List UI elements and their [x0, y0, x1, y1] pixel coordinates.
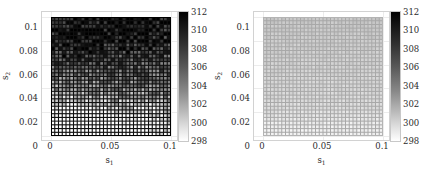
- colorbar-tick-label: 298: [403, 137, 419, 146]
- y-tick-label: 0.06: [231, 70, 250, 79]
- y-tick-label: 0.1: [24, 23, 38, 32]
- x-tick-label: 0.1: [163, 142, 177, 151]
- x-axis-label-left: s1: [41, 156, 178, 166]
- x-tick-label: 0.1: [375, 142, 389, 151]
- x-tick-label: 0.05: [101, 142, 120, 151]
- colorbar-tick-label: 312: [403, 8, 419, 17]
- colorbar-tick-label: 302: [191, 100, 207, 109]
- panel-right: 0.1 0.08 0.06 0.04 0.02 0 0 0.05 0.1 s1 …: [212, 0, 424, 178]
- colorbar-tick-label: 308: [191, 45, 207, 54]
- x-axis-label-right: s1: [253, 156, 390, 166]
- colorbar-tick-label: 310: [403, 26, 419, 35]
- axes-left: [41, 11, 178, 141]
- y-axis-label-text: s: [0, 76, 10, 80]
- colorbar-tick-label: 302: [403, 100, 419, 109]
- x-tick-label: 0: [259, 142, 264, 151]
- x-tick-label: 0.05: [313, 142, 332, 151]
- colorbar-tick-label: 304: [403, 81, 419, 90]
- y-axis-label-subscript: 2: [4, 72, 11, 76]
- x-axis-label-subscript: 1: [322, 159, 326, 166]
- colorbar-tick-label: 300: [403, 118, 419, 127]
- colorbar-tick-label: 310: [191, 26, 207, 35]
- y-axis-label-subscript: 2: [216, 72, 223, 76]
- y-tick-label: 0.04: [231, 94, 250, 103]
- mesh-canvas-right: [263, 17, 383, 136]
- x-tick-labels-left: 0 0.05 0.1: [41, 142, 178, 156]
- y-tick-label: 0.08: [231, 47, 250, 56]
- y-tick-label: 0.04: [19, 94, 38, 103]
- axes-right: [253, 11, 390, 141]
- panel-left: 0.1 0.08 0.06 0.04 0.02 0 0 0.05 0.1 s1 …: [0, 0, 212, 178]
- colorbar-tick-label: 306: [191, 63, 207, 72]
- colorbar-tick-label: 298: [191, 137, 207, 146]
- y-tick-label: 0: [33, 142, 38, 151]
- y-tick-label: 0.06: [19, 70, 38, 79]
- y-axis-label-right: s2: [213, 72, 223, 80]
- colorbar-tick-labels-right: 312 310 308 306 304 302 300 298: [403, 11, 424, 142]
- x-tick-labels-right: 0 0.05 0.1: [253, 142, 390, 156]
- y-axis-label-text: s: [212, 76, 222, 80]
- y-axis-label-left: s2: [1, 72, 11, 80]
- y-tick-label: 0.02: [231, 118, 250, 127]
- colorbar-tick-label: 306: [403, 63, 419, 72]
- y-tick-label: 0.08: [19, 47, 38, 56]
- colorbar-tick-label: 304: [191, 81, 207, 90]
- colorbar-tick-label: 308: [403, 45, 419, 54]
- colorbar-right: [390, 11, 401, 142]
- colorbar-tick-labels-left: 312 310 308 306 304 302 300 298: [191, 11, 213, 142]
- colorbar-tick-label: 312: [191, 8, 207, 17]
- colorbar-left: [178, 11, 189, 142]
- mesh-canvas-left: [51, 17, 171, 136]
- y-tick-label: 0.1: [236, 23, 250, 32]
- mesh-plot-right: [263, 17, 383, 136]
- figure-root: 0.1 0.08 0.06 0.04 0.02 0 0 0.05 0.1 s1 …: [0, 0, 424, 178]
- mesh-plot-left: [51, 17, 171, 136]
- y-tick-label: 0: [245, 142, 250, 151]
- colorbar-tick-label: 300: [191, 118, 207, 127]
- x-axis-label-subscript: 1: [110, 159, 114, 166]
- y-tick-label: 0.02: [19, 118, 38, 127]
- x-tick-label: 0: [47, 142, 52, 151]
